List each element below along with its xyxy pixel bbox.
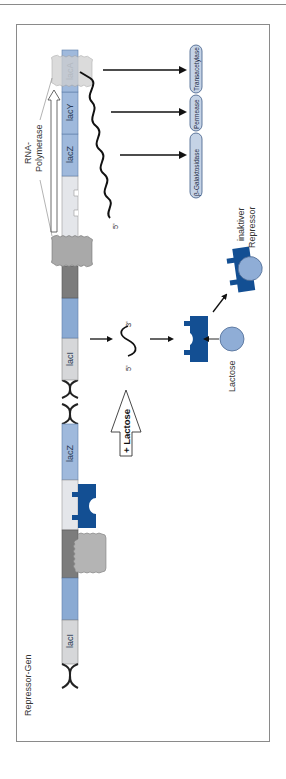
operator-region [62,176,78,238]
gene-label-lacy: lacY [65,103,75,121]
svg-text:β-Galaktosidase: β-Galaktosidase [193,149,201,196]
enzyme-pill-galaktosidase: β-Galaktosidase [190,133,202,198]
rna-polymerase-icon [51,235,92,267]
lactose-label: Lactose [227,360,237,392]
laci-mrna-5-prime: 5' [124,365,133,371]
induced-rna-polymerase-label-line1: RNA- [23,142,33,164]
rna-polymerase-transcribing-icon [51,55,92,87]
polycistronic-5-prime: 5' [111,223,120,229]
operator-notch [74,210,78,216]
gene-label-lacz: lacZ [65,145,75,163]
rna-polymerase-blocked-icon [74,533,107,573]
inactive-repressor-label-line1: inaktiver [236,207,246,241]
repressor-gene-label: Repressor-Gen [23,654,33,716]
svg-text:Transacetylase: Transacetylase [193,47,201,91]
enzyme-pill-permease: Permease [190,95,202,131]
lactose-molecule-icon [220,327,244,351]
gene-label-laci: lacI [65,352,75,366]
gene-label-laci: lacI [65,634,75,648]
operator-region [62,480,78,530]
gene-repressor-region [62,578,78,620]
gene-repressor-region [62,298,78,338]
lac-operon-diagram: lacI lacZ lacY lacA RNA- Polymerase 5' β… [0,0,286,779]
gene-label-lacz: lacZ [65,444,75,462]
operator-notch [74,190,78,196]
inactive-repressor-label-line2: Repressor [247,206,257,248]
promoter-region [62,266,78,298]
enzyme-pill-transacetylase: Transacetylase [190,45,202,93]
induced-rna-polymerase-label-line2: Polymerase [34,124,44,172]
laci-mrna-3-prime: 3' [124,321,133,327]
plus-lactose-label: + Lactose [121,409,132,453]
svg-text:Permease: Permease [193,99,200,129]
